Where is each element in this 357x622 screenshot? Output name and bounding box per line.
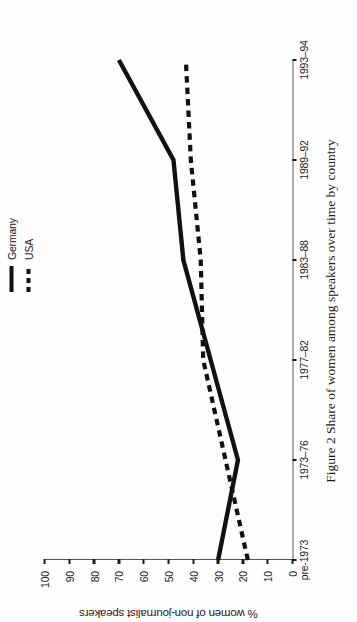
x-tick-label: 1993–94 xyxy=(297,40,309,79)
data-series-layer xyxy=(44,60,292,560)
y-tick-label: 70 xyxy=(112,571,124,582)
y-tick-mark xyxy=(142,560,145,565)
legend-label-usa: USA xyxy=(22,239,34,260)
y-tick-mark xyxy=(216,560,219,565)
y-tick-mark xyxy=(192,560,195,565)
x-tick-label: 1989–92 xyxy=(297,140,309,179)
y-tick-label: 50 xyxy=(162,571,174,582)
x-tick-label: 1977–82 xyxy=(297,340,309,379)
x-tick-label: 1973–76 xyxy=(297,440,309,479)
y-tick-mark xyxy=(92,560,95,565)
y-tick-label: 100 xyxy=(38,571,50,588)
y-tick-label: 10 xyxy=(261,571,273,582)
y-tick-label: 90 xyxy=(63,571,75,582)
y-tick-mark xyxy=(266,560,269,565)
y-tick-label: 20 xyxy=(236,571,248,582)
y-tick-label: 40 xyxy=(187,571,199,582)
legend-item-usa: USA xyxy=(21,218,34,292)
rotated-figure-wrapper: Germany USA 0102030405060708090100 pre-1… xyxy=(0,0,357,622)
x-tick-label: pre-1973 xyxy=(297,540,309,580)
figure: Germany USA 0102030405060708090100 pre-1… xyxy=(0,0,357,622)
y-tick-mark xyxy=(43,560,46,565)
legend-swatch-solid-icon xyxy=(9,266,13,292)
y-tick-mark xyxy=(167,560,170,565)
y-tick-label: 80 xyxy=(88,571,100,582)
series-line-germany xyxy=(118,60,237,560)
figure-page: Germany USA 0102030405060708090100 pre-1… xyxy=(0,0,357,622)
figure-caption: Figure 2 Share of women among speakers o… xyxy=(322,0,338,622)
series-line-usa xyxy=(185,60,247,560)
y-axis-label: % women of non-journalist speakers xyxy=(79,608,258,620)
y-tick-label: 0 xyxy=(286,571,298,577)
legend-swatch-dashed-icon xyxy=(26,266,30,292)
y-tick-mark xyxy=(68,560,71,565)
y-tick-mark xyxy=(117,560,120,565)
y-tick-mark xyxy=(241,560,244,565)
legend-label-germany: Germany xyxy=(5,218,17,260)
chart-legend: Germany USA xyxy=(4,218,34,292)
legend-item-germany: Germany xyxy=(4,218,17,292)
y-tick-label: 30 xyxy=(212,571,224,582)
x-tick-label: 1983–88 xyxy=(297,240,309,279)
plot-area: 0102030405060708090100 pre-19731973–7619… xyxy=(44,60,292,560)
y-tick-label: 60 xyxy=(137,571,149,582)
